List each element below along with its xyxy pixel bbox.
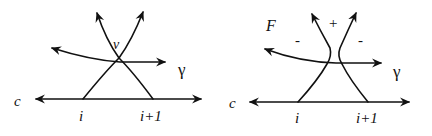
sign-plus: + [329, 15, 337, 31]
sign-minus-left: - [295, 32, 300, 48]
point-label-i-plus-1: i+1 [140, 108, 162, 124]
gamma-label: γ [392, 62, 401, 81]
figure: v γ c i i+1 F + - - γ c i i+1 [0, 0, 432, 136]
edge-from-i [298, 14, 331, 102]
gamma-path [52, 48, 165, 62]
left-diagram: v γ c i i+1 [14, 12, 201, 124]
gamma-label: γ [177, 60, 186, 79]
gamma-path [265, 49, 381, 63]
vertex-label-v: v [113, 37, 120, 52]
curve-label-c: c [229, 95, 236, 111]
sign-minus-right: - [358, 32, 363, 48]
point-label-i-plus-1: i+1 [356, 110, 378, 126]
edge-from-i-plus-1 [339, 13, 368, 102]
curve-label-c: c [14, 93, 21, 109]
point-label-i: i [295, 110, 299, 126]
face-label-F: F [265, 17, 276, 34]
point-label-i: i [79, 108, 83, 124]
edge-from-i-plus-1 [97, 13, 153, 99]
right-diagram: F + - - γ c i i+1 [229, 13, 409, 126]
edge-from-i [83, 12, 143, 99]
